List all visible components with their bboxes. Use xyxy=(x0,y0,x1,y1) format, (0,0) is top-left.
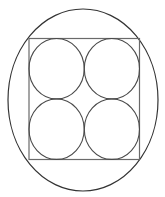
circle-top-right xyxy=(84,38,139,98)
circles-group xyxy=(29,38,140,159)
inscribed-square xyxy=(29,39,140,160)
outer-ellipse xyxy=(8,9,158,191)
circle-bottom-left xyxy=(29,99,84,159)
circle-bottom-right xyxy=(84,99,139,159)
diagram-canvas xyxy=(0,0,165,197)
geometry-diagram xyxy=(0,0,165,197)
circle-top-left xyxy=(29,38,84,98)
